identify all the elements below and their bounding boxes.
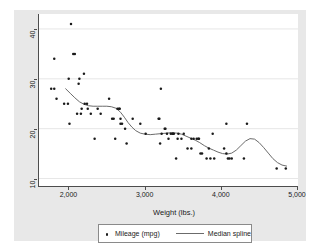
scatter-point bbox=[167, 137, 170, 140]
scatter-point bbox=[125, 142, 128, 145]
graph-region: 10203040 2,0003,0004,0005,000 Weight (lb… bbox=[14, 10, 306, 241]
figure-canvas: 10203040 2,0003,0004,0005,000 Weight (lb… bbox=[0, 0, 324, 251]
scatter-point bbox=[186, 147, 189, 150]
scatter-point bbox=[63, 102, 66, 105]
x-tick-mark-4000 bbox=[221, 187, 222, 190]
scatter-point bbox=[159, 142, 162, 145]
scatter-point bbox=[139, 122, 142, 125]
scatter-point bbox=[275, 167, 278, 170]
scatter-point bbox=[246, 122, 249, 125]
scatter-point bbox=[225, 152, 228, 155]
scatter-point bbox=[74, 53, 77, 56]
scatter-point bbox=[86, 102, 89, 105]
scatter-point bbox=[87, 107, 90, 110]
scatter-point bbox=[80, 112, 83, 115]
y-tick-label-30: 30 bbox=[29, 77, 36, 91]
scatter-point bbox=[160, 88, 163, 91]
x-axis-title: Weight (lbs.) bbox=[28, 208, 320, 217]
x-tick-mark-2000 bbox=[68, 187, 69, 190]
scatter-point bbox=[211, 132, 214, 135]
scatter-point bbox=[77, 83, 80, 86]
scatter-point bbox=[160, 132, 163, 135]
x-tick-mark-5000 bbox=[297, 187, 298, 190]
scatter-point bbox=[83, 102, 86, 105]
scatter-point bbox=[164, 127, 167, 130]
scatter-point bbox=[182, 132, 185, 135]
scatter-point bbox=[80, 107, 83, 110]
scatter-point bbox=[208, 147, 211, 150]
scatter-dot-icon bbox=[99, 225, 115, 243]
legend-label-mileage: Mileage (mpg) bbox=[115, 230, 160, 237]
scatter-point bbox=[119, 107, 122, 110]
scatter-point bbox=[225, 122, 228, 125]
legend-entry-mileage[interactable]: Mileage (mpg) bbox=[99, 225, 160, 243]
scatter-point bbox=[121, 122, 124, 125]
scatter-point bbox=[108, 98, 111, 101]
scatter-point bbox=[190, 137, 193, 140]
scatter-point bbox=[90, 112, 93, 115]
scatter-point bbox=[119, 117, 122, 120]
scatter-point bbox=[68, 122, 71, 125]
scatter-point bbox=[124, 127, 127, 130]
scatter-point bbox=[53, 88, 56, 91]
x-tick-label-4000: 4,000 bbox=[212, 191, 230, 198]
scatter-point bbox=[176, 137, 179, 140]
scatter-point bbox=[96, 107, 99, 110]
scatter-point bbox=[177, 132, 180, 135]
scatter-point bbox=[112, 117, 115, 120]
scatter-point bbox=[180, 137, 183, 140]
scatter-point bbox=[228, 157, 231, 160]
scatter-point bbox=[190, 147, 193, 150]
scatter-point bbox=[144, 132, 147, 135]
scatter-point bbox=[55, 98, 58, 101]
scatter-point bbox=[285, 167, 288, 170]
scatter-point bbox=[67, 78, 70, 81]
y-tick-label-20: 20 bbox=[29, 127, 36, 141]
scatter-point bbox=[114, 137, 117, 140]
scatter-point bbox=[78, 78, 81, 81]
scatter-point bbox=[192, 137, 195, 140]
median-spline-path bbox=[66, 89, 287, 166]
scatter-point bbox=[83, 73, 86, 76]
scatter-point bbox=[70, 23, 73, 26]
scatter-point bbox=[209, 157, 212, 160]
scatter-point bbox=[205, 157, 208, 160]
scatter-point bbox=[50, 88, 53, 91]
y-tick-label-40: 40 bbox=[29, 27, 36, 41]
mileage-scatter-points bbox=[50, 23, 287, 170]
x-tick-label-3000: 3,000 bbox=[136, 191, 154, 198]
x-tick-label-2000: 2,000 bbox=[60, 191, 78, 198]
plot-svg bbox=[39, 14, 298, 186]
scatter-point bbox=[67, 102, 70, 105]
plot-area bbox=[38, 14, 298, 187]
scatter-point bbox=[223, 147, 226, 150]
y-tick-label-10: 10 bbox=[29, 177, 36, 191]
scatter-point bbox=[201, 152, 204, 155]
x-tick-label-5000: 5,000 bbox=[288, 191, 306, 198]
legend: Mileage (mpg) Median spline bbox=[98, 224, 252, 243]
scatter-point bbox=[158, 117, 161, 120]
scatter-point bbox=[131, 117, 134, 120]
line-key-icon bbox=[176, 233, 204, 234]
x-tick-mark-3000 bbox=[145, 187, 146, 190]
scatter-point bbox=[93, 137, 96, 140]
scatter-point bbox=[76, 112, 79, 115]
scatter-point bbox=[198, 137, 201, 140]
scatter-point bbox=[213, 157, 216, 160]
scatter-point bbox=[230, 157, 233, 160]
legend-entry-median-spline[interactable]: Median spline bbox=[172, 230, 251, 237]
gridlines bbox=[39, 29, 298, 179]
scatter-point bbox=[53, 58, 56, 61]
scatter-point bbox=[173, 132, 176, 135]
scatter-point bbox=[243, 157, 246, 160]
scatter-point bbox=[175, 157, 178, 160]
median-spline-curve bbox=[66, 89, 287, 166]
legend-label-median-spline: Median spline bbox=[208, 230, 251, 237]
scatter-point bbox=[99, 112, 102, 115]
scatter-point bbox=[166, 132, 169, 135]
